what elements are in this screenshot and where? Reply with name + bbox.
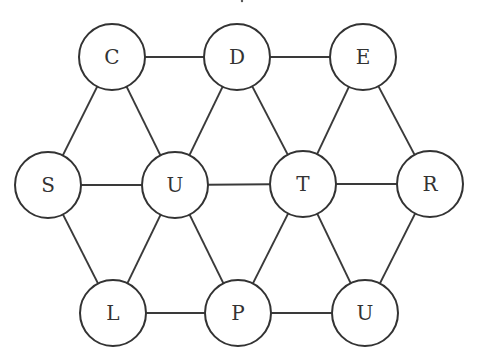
letter-graph-diagram: CDESUTRLPU [0,0,478,352]
node-u2: U [332,280,398,346]
node-label: E [356,45,371,69]
top-crop-artifact [241,0,243,2]
node-label: P [231,301,244,325]
node-label: T [296,172,310,196]
node-label: U [167,173,184,197]
node-d: D [204,24,270,90]
node-label: S [41,173,55,197]
node-label: L [106,301,119,325]
node-label: R [422,172,438,196]
node-s: S [15,152,81,218]
node-label: D [229,45,245,69]
node-t: T [270,151,336,217]
node-e: E [330,24,396,90]
node-r: R [397,151,463,217]
edges [48,57,430,313]
node-l: L [80,280,146,346]
node-c: C [79,24,145,90]
node-u1: U [142,152,208,218]
node-label: U [357,301,374,325]
node-label: C [104,45,119,69]
node-p: P [205,280,271,346]
